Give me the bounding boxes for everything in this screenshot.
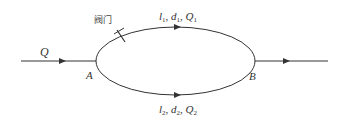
node-b-label: B: [249, 70, 256, 82]
inflow-arrow-icon: [59, 58, 66, 64]
diagram-canvas: Q A B 阀门 l1, d1, Q1 l2, d2, Q2: [0, 0, 343, 124]
upper-branch-label: l1, d1, Q1: [159, 10, 198, 24]
valve-label: 阀门: [94, 14, 112, 25]
upper-branch-arrow-icon: [174, 24, 181, 30]
parallel-pipe-diagram: Q A B 阀门 l1, d1, Q1 l2, d2, Q2: [0, 0, 343, 124]
outflow-arrow-icon: [283, 58, 290, 64]
lower-branch-arrow-icon: [174, 92, 181, 98]
node-a-label: A: [85, 69, 93, 81]
inflow-label: Q: [40, 45, 49, 59]
lower-branch-label: l2, d2, Q2: [159, 103, 198, 117]
pipe-loop: [96, 27, 255, 95]
